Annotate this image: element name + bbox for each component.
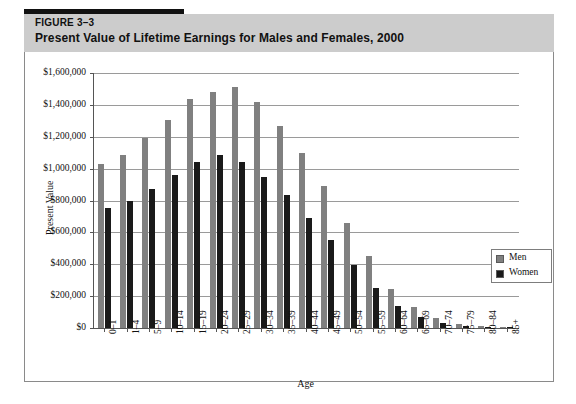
bar-men — [478, 326, 484, 328]
bar-women — [149, 189, 155, 328]
x-axis-title: Age — [93, 378, 518, 389]
x-axis-tick-label: 5–9 — [153, 320, 163, 334]
x-axis-tick — [395, 328, 396, 332]
bar-men — [165, 120, 171, 328]
bar-women — [284, 195, 290, 328]
y-axis-tick-label: $400,000 — [50, 258, 86, 268]
x-axis-tick-label: 15–19 — [198, 310, 208, 334]
x-axis-tick — [440, 328, 441, 332]
bar-men — [299, 153, 305, 328]
bar-men — [411, 307, 417, 328]
y-axis-tick-label: $1,600,000 — [43, 67, 86, 77]
x-axis-tick — [373, 328, 374, 332]
x-axis-tick — [462, 328, 463, 332]
y-axis-tick-label: $1,400,000 — [43, 99, 86, 109]
x-axis-tick — [149, 328, 150, 332]
x-axis-tick-label: 65–69 — [421, 310, 431, 334]
x-axis-tick — [127, 328, 128, 332]
y-axis-tick-label: $0 — [77, 322, 87, 332]
y-axis-tick-label: $1,200,000 — [43, 131, 86, 141]
x-axis-tick — [507, 328, 508, 332]
y-axis-tick-label: $1,000,000 — [43, 163, 86, 173]
x-axis-tick — [216, 328, 217, 332]
figure-container: FIGURE 3–3 Present Value of Lifetime Ear… — [0, 0, 576, 404]
x-axis-tick-label: 70–74 — [444, 310, 454, 334]
x-axis-tick — [238, 328, 239, 332]
bar-men — [321, 186, 327, 328]
chart-legend: Men Women — [491, 249, 552, 283]
x-axis-tick — [417, 328, 418, 332]
x-axis-tick-label: 45–49 — [332, 310, 342, 334]
x-axis-tick-label: 60–64 — [399, 310, 409, 334]
x-axis-tick-label: 55–59 — [377, 310, 387, 334]
x-axis-tick-label: 20–24 — [220, 310, 230, 334]
bar-women — [217, 155, 223, 328]
x-axis-tick-label: 75–79 — [466, 310, 476, 334]
x-axis-tick — [484, 328, 485, 332]
x-axis-tick — [104, 328, 105, 332]
bar-men — [187, 99, 193, 329]
x-axis-tick-label: 10–14 — [175, 310, 185, 334]
y-axis-tick-label: $600,000 — [50, 226, 86, 236]
x-axis-tick-label: 35–39 — [287, 310, 297, 334]
bar-women — [261, 177, 267, 328]
y-axis-title: Present Value — [44, 180, 55, 235]
bar-women — [127, 201, 133, 329]
bar-men — [142, 138, 148, 328]
bar-chart: $0$200,000$400,000$600,000$800,000$1,000… — [0, 0, 576, 404]
bar-women — [239, 162, 245, 328]
x-axis-tick — [171, 328, 172, 332]
bar-men — [366, 256, 372, 328]
x-axis-tick-label: 40–44 — [310, 310, 320, 334]
bar-women — [105, 208, 111, 328]
x-axis-tick-label: 30–34 — [265, 310, 275, 334]
bar-men — [433, 318, 439, 328]
bar-men — [388, 289, 394, 328]
x-axis-tick — [350, 328, 351, 332]
x-axis-tick-label: 50–54 — [354, 310, 364, 334]
x-axis-tick-label: 85+ — [511, 319, 521, 334]
bar-women — [172, 175, 178, 328]
y-axis-tick-label: $200,000 — [50, 290, 86, 300]
x-axis-tick-label: 0–1 — [108, 320, 118, 334]
bar-men — [500, 327, 506, 328]
bar-men — [254, 102, 260, 328]
legend-label-men: Men — [509, 252, 526, 262]
legend-swatch-women-icon — [496, 270, 504, 278]
bars-layer — [93, 73, 518, 328]
x-axis-tick — [328, 328, 329, 332]
x-axis-tick — [194, 328, 195, 332]
bar-men — [277, 126, 283, 328]
bar-men — [344, 223, 350, 328]
x-axis-tick-label: 80–84 — [488, 310, 498, 334]
bar-men — [456, 324, 462, 328]
y-axis-tick — [90, 328, 94, 329]
x-axis-tick — [261, 328, 262, 332]
bar-men — [98, 164, 104, 328]
x-axis-tick-label: 25–29 — [242, 310, 252, 334]
x-axis-tick-label: 1–4 — [131, 320, 141, 334]
x-axis-tick — [283, 328, 284, 332]
legend-label-women: Women — [509, 267, 538, 277]
bar-women — [194, 162, 200, 328]
bar-men — [120, 155, 126, 328]
bar-men — [232, 87, 238, 328]
legend-swatch-men-icon — [496, 255, 504, 263]
y-axis-tick-label: $800,000 — [50, 195, 86, 205]
x-axis-tick — [306, 328, 307, 332]
bar-men — [210, 92, 216, 328]
